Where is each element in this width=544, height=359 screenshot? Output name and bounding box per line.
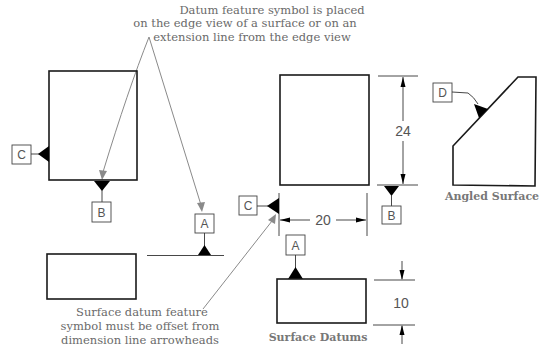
left-tall-rectangle bbox=[49, 71, 137, 180]
dimension-value-10: 10 bbox=[393, 295, 409, 311]
top-callout-line-1: Datum feature symbol is placed bbox=[179, 3, 365, 17]
leader-arrowhead-b bbox=[99, 170, 107, 180]
datum-triangle-a-left bbox=[198, 245, 211, 255]
angled-surface-part: D Angled Surface bbox=[433, 77, 539, 203]
bottom-callout-line-3: dimension line arrowheads bbox=[61, 333, 219, 347]
dim-arrow-10-bottom bbox=[400, 325, 405, 335]
dim-arrow-10-top bbox=[400, 270, 405, 280]
leader-to-dimension-arrow bbox=[203, 221, 272, 309]
dim-arrow-20-left bbox=[280, 218, 290, 223]
dimension-value-24: 24 bbox=[395, 123, 411, 139]
middle-flat-part: A 10 Surface Datums bbox=[269, 235, 415, 344]
bottom-callout: Surface datum feature symbol must be off… bbox=[61, 214, 276, 347]
bottom-callout-line-2: symbol must be offset from bbox=[61, 319, 220, 333]
dim-arrow-24-top bbox=[401, 77, 406, 87]
datum-label-c-mid: C bbox=[244, 199, 253, 213]
middle-tall-rectangle bbox=[280, 75, 369, 185]
caption-surface-datums: Surface Datums bbox=[269, 331, 368, 344]
datum-triangle-b-mid bbox=[384, 186, 399, 196]
leader-arrowhead-a bbox=[197, 202, 205, 212]
datum-triangle-c-mid bbox=[267, 198, 279, 214]
left-a-datum: A bbox=[147, 214, 224, 256]
left-flat-rectangle bbox=[47, 254, 136, 299]
datum-triangle-b-left bbox=[94, 181, 110, 191]
datum-leader-d bbox=[452, 92, 478, 104]
datum-triangle-d bbox=[474, 104, 488, 118]
datum-label-b-mid: B bbox=[387, 209, 395, 223]
leader-to-b bbox=[103, 37, 149, 172]
dimension-value-20: 20 bbox=[315, 212, 331, 228]
datum-feature-diagram: Datum feature symbol is placed on the ed… bbox=[0, 0, 544, 359]
top-callout-line-3: extension line from the edge view bbox=[153, 30, 351, 44]
datum-label-a-left: A bbox=[200, 217, 208, 231]
middle-tall-part: 24 B 20 C bbox=[239, 75, 418, 236]
leader-to-a bbox=[149, 37, 201, 205]
leader-arrowhead-dim bbox=[268, 214, 276, 224]
top-callout-line-2: on the edge view of a surface or on an bbox=[133, 16, 357, 30]
datum-label-c-left: C bbox=[17, 148, 26, 162]
datum-triangle-a-mid bbox=[288, 267, 303, 279]
datum-triangle-c-left bbox=[38, 146, 49, 162]
dim-arrow-20-right bbox=[356, 218, 366, 223]
angled-shape bbox=[453, 77, 536, 186]
caption-angled-surface: Angled Surface bbox=[444, 190, 539, 203]
datum-label-d: D bbox=[438, 86, 447, 100]
dim-arrow-24-bottom bbox=[401, 174, 406, 184]
bottom-callout-line-1: Surface datum feature bbox=[76, 305, 208, 319]
top-callout-leaders bbox=[99, 37, 205, 212]
middle-flat-rectangle bbox=[277, 279, 366, 323]
top-callout: Datum feature symbol is placed on the ed… bbox=[133, 3, 365, 44]
left-tall-part: C B bbox=[12, 71, 137, 222]
datum-label-b-left: B bbox=[97, 206, 105, 220]
datum-label-a-mid: A bbox=[291, 239, 299, 253]
